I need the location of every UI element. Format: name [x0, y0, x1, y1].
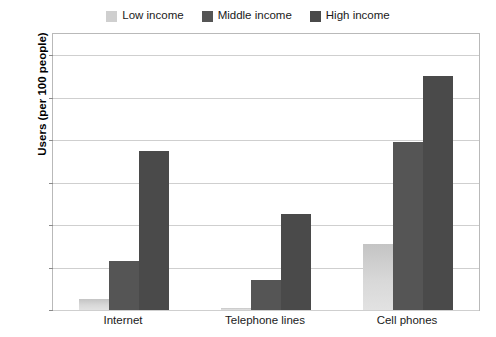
y-tick-mark-60	[49, 183, 53, 184]
gridline-0	[53, 310, 479, 311]
gridline-100	[53, 98, 479, 99]
gridline-120	[53, 55, 479, 56]
bar	[109, 261, 139, 310]
legend-swatch-high-income	[310, 11, 321, 22]
bar	[251, 280, 281, 310]
bar	[79, 299, 109, 310]
legend-entry-middle-income: Middle income	[202, 10, 292, 22]
y-tick-mark-100	[49, 98, 53, 99]
bar	[221, 308, 251, 310]
legend-entry-high-income: High income	[310, 10, 390, 22]
bar	[423, 76, 453, 310]
bar	[393, 142, 423, 310]
legend-label-low-income: Low income	[122, 10, 183, 22]
bar	[281, 214, 311, 310]
y-tick-mark-40	[49, 225, 53, 226]
y-tick-mark-80	[49, 140, 53, 141]
plot-frame: 020406080100120	[52, 33, 480, 311]
legend-swatch-middle-income	[202, 11, 213, 22]
bar	[139, 151, 169, 310]
y-tick-mark-120	[49, 55, 53, 56]
chart-legend: Low income Middle income High income	[0, 8, 496, 24]
legend-label-middle-income: Middle income	[218, 10, 292, 22]
y-axis-title: Users (per 100 people)	[36, 19, 48, 169]
legend-entry-low-income: Low income	[106, 10, 183, 22]
legend-label-high-income: High income	[326, 10, 390, 22]
bar	[363, 244, 393, 310]
y-tick-mark-0	[49, 310, 53, 311]
legend-swatch-low-income	[106, 11, 117, 22]
y-tick-mark-20	[49, 268, 53, 269]
x-axis-label-cell-phones: Cell phones	[322, 315, 492, 327]
plot-area: 020406080100120	[53, 34, 479, 310]
gridline-80	[53, 140, 479, 141]
